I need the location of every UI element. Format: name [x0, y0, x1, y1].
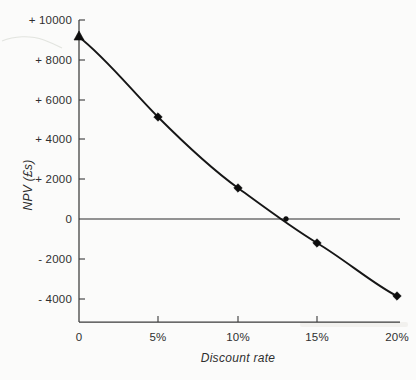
scan-artifact-band: [300, 322, 408, 327]
x-tick-label-20: 20%: [385, 331, 409, 343]
scan-artifact-streak: [2, 37, 62, 48]
data-point-0-percent: [74, 31, 84, 40]
y-tick-label-10000: + 10000: [29, 14, 72, 26]
y-axis-title: NPV (£s): [21, 159, 35, 210]
x-tick-label-10: 10%: [226, 331, 250, 343]
chart-canvas: + 10000 + 8000 + 6000 + 4000 + 2000 0 - …: [0, 0, 416, 380]
y-tick-label-minus-2000: - 2000: [38, 253, 72, 265]
npv-discount-rate-chart: + 10000 + 8000 + 6000 + 4000 + 2000 0 - …: [0, 0, 416, 380]
npv-series-line: [79, 37, 397, 296]
y-axis-tick-labels: + 10000 + 8000 + 6000 + 4000 + 2000 0 - …: [29, 14, 72, 305]
y-axis-ticks: [79, 20, 85, 299]
y-tick-label-2000: + 2000: [35, 173, 72, 185]
x-tick-label-0: 0: [76, 331, 83, 343]
y-axis: + 10000 + 8000 + 6000 + 4000 + 2000 0 - …: [21, 14, 85, 322]
x-axis-tick-labels: 0 5% 10% 15% 20%: [76, 331, 409, 343]
y-tick-label-0: 0: [65, 213, 72, 225]
x-axis-title: Discount rate: [201, 351, 276, 365]
npv-series-markers: [74, 31, 401, 300]
y-tick-label-8000: + 8000: [35, 54, 72, 66]
y-tick-label-minus-4000: - 4000: [38, 293, 72, 305]
y-tick-label-4000: + 4000: [35, 133, 72, 145]
data-point-15-percent: [313, 239, 321, 247]
x-tick-label-15: 15%: [305, 331, 329, 343]
x-tick-label-5: 5%: [149, 331, 166, 343]
y-tick-label-6000: + 6000: [35, 94, 72, 106]
data-point-20-percent: [393, 292, 401, 300]
x-axis-ticks: [158, 316, 317, 322]
data-point-zero-crossing: [284, 217, 289, 222]
